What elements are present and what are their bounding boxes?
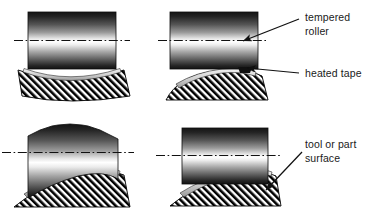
annotation-heated-tape: heated tape <box>305 67 362 79</box>
panel-top-left <box>14 12 130 101</box>
annotation-tool-or-part-surface-line1: tool or part <box>305 138 356 150</box>
figure-root: tempered roller heated tape tool or part… <box>0 0 377 218</box>
annotation-tool-or-part-surface-line2: surface <box>305 152 340 164</box>
tempered-roller-body <box>28 12 116 69</box>
annotation-heated-tape-line1: heated tape <box>305 67 362 79</box>
roller-tape-compaction-diagram: tempered roller heated tape tool or part… <box>0 0 377 218</box>
annotation-tempered-roller-line1: tempered <box>305 11 350 23</box>
annotation-tempered-roller-line2: roller <box>305 25 329 37</box>
